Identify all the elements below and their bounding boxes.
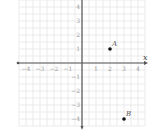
y-tick-label: 3 [76, 17, 80, 24]
x-tick-label: −4 [22, 65, 31, 72]
x-tick-label: −1 [64, 65, 73, 72]
x-tick-label: −2 [50, 65, 59, 72]
y-tick-label: −1 [71, 73, 80, 80]
coordinate-plane: x −4−3−2−112344321−1−2−3−4 AB [0, 0, 160, 138]
y-tick-label: −2 [71, 87, 80, 94]
x-tick-label: 3 [122, 65, 126, 72]
x-tick-label: 2 [108, 65, 112, 72]
y-tick-label: −3 [71, 101, 80, 108]
y-axis-down-arrow-icon [81, 126, 84, 130]
y-tick-label: 1 [76, 45, 80, 52]
point-label: B [125, 110, 131, 118]
data-points: AB [108, 40, 131, 121]
y-tick-label: −4 [71, 115, 80, 122]
y-tick-label: 2 [76, 31, 80, 38]
x-axis-label: x [143, 53, 148, 62]
point-label: A [111, 40, 117, 48]
x-tick-label: 4 [136, 65, 140, 72]
x-tick-label: 1 [94, 65, 98, 72]
x-axis-left-arrow-icon [17, 62, 20, 65]
y-tick-label: 4 [76, 3, 80, 10]
x-tick-label: −3 [36, 65, 45, 72]
